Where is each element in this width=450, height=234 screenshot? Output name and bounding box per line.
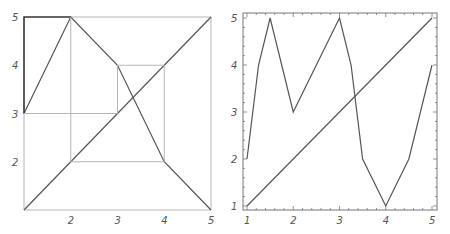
series-y-x [247,18,432,206]
y-tick-label: 2 [231,154,237,165]
x-tick-label: 1 [244,215,250,226]
x-tick-label: 4 [161,215,167,226]
y-tick-label: 5 [231,13,237,24]
x-tick-label: 3 [115,215,121,226]
y-tick-label: 1 [231,201,237,212]
x-tick-label: 2 [290,215,296,226]
cobweb-chart: 23452345 [12,12,214,226]
y-tick-label: 3 [231,107,237,118]
x-tick-label: 3 [337,215,343,226]
y-tick-label: 5 [12,12,18,23]
y-tick-label: 4 [12,60,18,71]
chart-canvas: 23452345 1234512345 [0,0,450,234]
x-tick-label: 4 [383,215,389,226]
y-tick-label: 3 [12,109,18,120]
x-tick-label: 2 [68,215,74,226]
series-cobweb [24,17,164,162]
y-tick-label: 4 [231,60,237,71]
x-tick-label: 5 [429,215,435,226]
line-chart: 1234512345 [231,13,437,226]
x-tick-label: 5 [208,215,214,226]
y-tick-label: 2 [12,157,18,168]
